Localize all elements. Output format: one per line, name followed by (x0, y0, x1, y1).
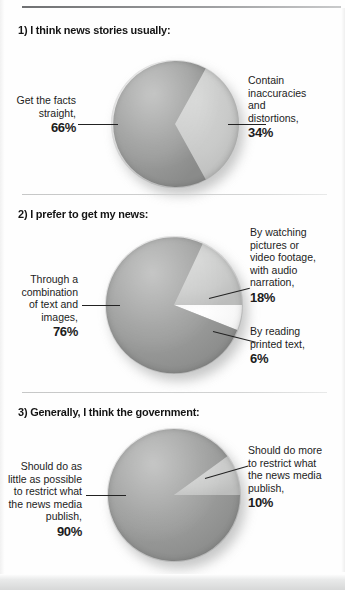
pie-3-label-right-line-2: to restrict what (248, 457, 316, 469)
pie-3-label-left-line-3: to restrict what (14, 485, 82, 497)
pie-2-label-right2-line-1: By reading (250, 325, 300, 337)
pie-2-label-right-pct: 18% (250, 289, 342, 305)
pie-1-label-left: Get the facts straight, 66% (12, 94, 76, 135)
pie-3-label-left-line-5: publish, (46, 510, 82, 522)
pie-3-label-left-line-2: little as possible (8, 473, 82, 485)
pie-2-label-left-line-3: of text and (29, 298, 78, 310)
pie-1-label-right-pct: 34% (248, 124, 340, 140)
pie-2-label-left-line-2: combination (21, 286, 78, 298)
pie-1-label-right-line-1: Contain (248, 74, 284, 86)
pie-3-label-left: Should do as little as possible to restr… (6, 460, 82, 539)
pie-1-label-right: Contain inaccuracies and distortions, 34… (248, 74, 340, 140)
pie-1-label-right-line-4: distortions, (248, 112, 299, 124)
pie-3-label-right-line-3: the news media (248, 469, 322, 481)
pie-chart-1 (111, 60, 239, 188)
pie-1-disc (111, 60, 239, 188)
pie-1-label-right-line-2: inaccuracies (248, 87, 306, 99)
section-divider-2 (22, 392, 327, 393)
section-divider-1 (22, 194, 327, 195)
pie-2-label-right-upper: By watching pictures or video footage, w… (250, 226, 342, 305)
pie-chart-2 (105, 236, 243, 374)
question-section-1: 1) I think news stories usually: (0, 14, 345, 196)
question-section-3: 3) Generally, I think the government: (0, 396, 345, 574)
pie-2-label-left: Through a combination of text and images… (14, 273, 78, 339)
question-2-heading: 2) I prefer to get my news: (18, 208, 148, 220)
question-3-heading: 3) Generally, I think the government: (18, 406, 200, 418)
pie-3-disc (107, 428, 241, 562)
pie-3-label-right: Should do more to restrict what the news… (248, 444, 342, 510)
pie-3-label-left-line-1: Should do as (21, 460, 82, 472)
infographic-page: 1) I think news stories usually: (0, 0, 345, 590)
pie-1-label-right-line-3: and (248, 99, 266, 111)
pie-2-leader-left (82, 305, 120, 306)
pie-3-label-right-pct: 10% (248, 494, 342, 510)
pie-2-label-left-line-1: Through a (30, 273, 78, 285)
pie-2-label-right-line-4: with audio (250, 264, 297, 276)
pie-3-label-left-pct: 90% (6, 523, 82, 539)
pie-2-label-right-line-1: By watching (250, 226, 307, 238)
pie-1-label-left-line-2: straight, (39, 107, 76, 119)
pie-1-label-left-line-1: Get the facts (16, 94, 76, 106)
pie-2-disc (105, 236, 243, 374)
question-1-heading: 1) I think news stories usually: (18, 24, 170, 36)
pie-3-label-left-line-4: the news media (8, 498, 82, 510)
bottom-band (0, 574, 345, 590)
pie-3-label-right-line-1: Should do more (248, 444, 322, 456)
pie-3-label-right-line-4: publish, (248, 482, 284, 494)
pie-1-leader-left (78, 124, 118, 125)
pie-2-label-left-line-4: images, (41, 311, 78, 323)
top-rule (22, 6, 341, 8)
pie-chart-3 (107, 428, 241, 562)
pie-3-leader-left (86, 495, 126, 496)
pie-2-label-left-pct: 76% (14, 323, 78, 339)
pie-2-label-right-line-2: pictures or (250, 239, 299, 251)
pie-2-label-right-line-5: narration, (250, 276, 294, 288)
pie-1-label-left-pct: 66% (12, 119, 76, 135)
pie-2-label-right2-line-2: printed text, (250, 338, 305, 350)
pie-2-label-right-lower: By reading printed text, 6% (250, 325, 342, 366)
pie-2-label-right2-pct: 6% (250, 350, 342, 366)
question-section-2: 2) I prefer to get my news: (0, 198, 345, 394)
pie-2-label-right-line-3: video footage, (250, 251, 316, 263)
